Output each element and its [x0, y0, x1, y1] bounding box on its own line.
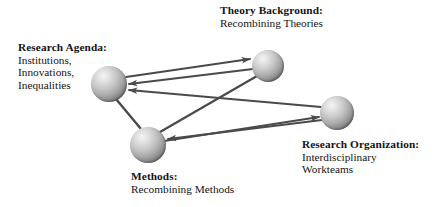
- edge-theory-to-agenda: [129, 69, 253, 84]
- edge-agenda-to-theory: [126, 59, 250, 77]
- sphere-icon: [130, 127, 166, 163]
- label-research-organization-line-2: Workteams: [302, 163, 419, 176]
- label-methods-heading: Methods:: [131, 170, 234, 183]
- label-research-agenda-line-2: Innovations,: [18, 66, 107, 79]
- label-methods-line-1: Recombining Methods: [131, 183, 234, 196]
- edge-agenda-to-methods: [116, 99, 141, 129]
- label-research-organization-heading: Research Organization:: [302, 138, 419, 151]
- label-methods: Methods: Recombining Methods: [131, 170, 234, 195]
- edge-methods-to-theory: [160, 76, 257, 132]
- label-research-agenda-line-1: Institutions,: [18, 54, 107, 67]
- sphere-icon: [320, 96, 354, 130]
- label-research-agenda: Research Agenda: Institutions, Innovatio…: [18, 41, 107, 92]
- label-theory-background-heading: Theory Background:: [220, 4, 323, 17]
- edge-organization-to-agenda: [129, 90, 321, 107]
- node-research-organization[interactable]: [320, 96, 354, 130]
- node-theory-background[interactable]: [252, 50, 284, 82]
- label-research-organization-line-1: Interdisciplinary: [302, 151, 419, 164]
- label-research-agenda-line-3: Inequalities: [18, 79, 107, 92]
- label-research-organization: Research Organization: Interdisciplinary…: [302, 138, 419, 176]
- label-theory-background-line-1: Recombining Theories: [220, 17, 323, 30]
- concept-diagram: Research Agenda: Institutions, Innovatio…: [0, 0, 440, 207]
- sphere-icon: [252, 50, 284, 82]
- node-methods[interactable]: [130, 127, 166, 163]
- edge-organization-to-methods: [168, 120, 322, 139]
- label-research-agenda-heading: Research Agenda:: [18, 41, 107, 54]
- label-theory-background: Theory Background: Recombining Theories: [220, 4, 323, 29]
